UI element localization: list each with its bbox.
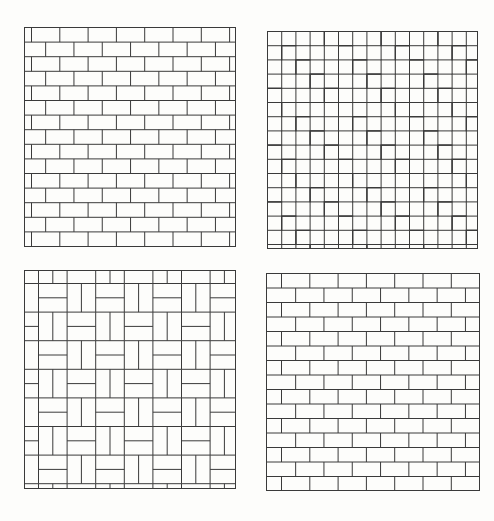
stretcher-bond-a-panel (24, 27, 236, 247)
basketweave-panel (24, 270, 236, 489)
herringbone-panel (267, 31, 478, 249)
stretcher-bond-b-panel (266, 273, 480, 491)
